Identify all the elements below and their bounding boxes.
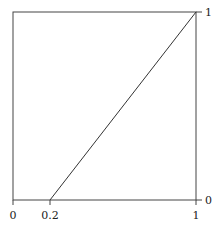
x-label-1: 1: [193, 209, 200, 222]
x-label-0: 0: [10, 209, 17, 222]
chart-svg: 0 0.2 1 0 1: [0, 0, 224, 229]
data-line: [50, 12, 196, 200]
y-label-0: 0: [205, 194, 212, 207]
plot-frame: [13, 12, 196, 200]
y-label-1: 1: [205, 6, 212, 19]
x-label-0.2: 0.2: [41, 209, 59, 222]
